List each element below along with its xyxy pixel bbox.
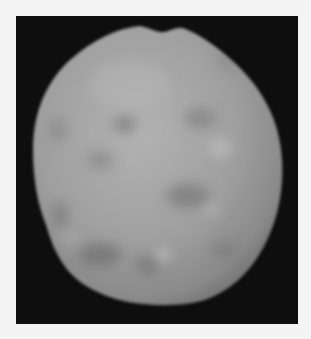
rocky-body-render <box>0 0 311 339</box>
rocky-body <box>33 26 282 305</box>
